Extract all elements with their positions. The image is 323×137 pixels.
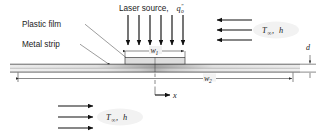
convection-top-comma: , <box>272 26 274 35</box>
convection-top: T ∞ , h <box>217 20 299 40</box>
thickness-dimension: d <box>300 43 316 78</box>
convection-top-temp-subscript: ∞ <box>268 30 272 36</box>
laser-source-label: Laser source, <box>119 4 169 13</box>
metal-strip-leader <box>80 44 108 63</box>
w1-dimension: w 1 <box>125 46 185 57</box>
convection-bottom: T ∞ , h <box>58 106 143 128</box>
convection-bottom-h: h <box>123 113 127 122</box>
w2-subscript: 2 <box>209 78 212 84</box>
plastic-film-label: Plastic film <box>22 20 61 29</box>
heat-transfer-schematic: Laser source, q o ″ Plastic film Metal s… <box>0 0 323 137</box>
callouts: Plastic film Metal strip <box>22 20 126 65</box>
x-axis-label: x <box>172 91 177 100</box>
convection-bottom-comma: , <box>116 113 118 122</box>
thickness-label: d <box>306 43 311 52</box>
convection-top-label-halo <box>253 22 299 39</box>
convection-bottom-label-halo <box>97 109 143 126</box>
metal-strip-label: Metal strip <box>22 40 60 49</box>
w1-subscript: 1 <box>156 50 159 56</box>
convection-bottom-temp-subscript: ∞ <box>112 117 116 123</box>
w2-dimension: w 2 <box>18 73 293 84</box>
laser-source-label-group: Laser source, q o ″ <box>119 3 184 14</box>
plastic-film-leader <box>85 24 126 57</box>
laser-arrows <box>128 15 183 45</box>
convection-top-h: h <box>279 26 283 35</box>
